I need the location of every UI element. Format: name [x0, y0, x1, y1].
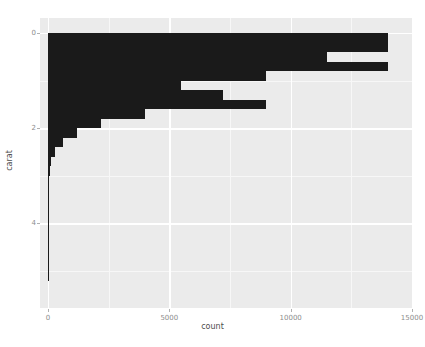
bar — [48, 233, 49, 243]
y-axis-tick-label: 0 — [20, 29, 36, 37]
bar — [48, 204, 49, 214]
bar — [48, 81, 181, 91]
bar — [48, 261, 49, 271]
bar — [48, 223, 49, 233]
plot-panel — [40, 18, 412, 308]
x-axis-tick — [412, 309, 413, 312]
x-axis-tick — [169, 309, 170, 312]
bar — [48, 33, 388, 43]
bar — [48, 271, 49, 281]
y-axis-tick — [37, 128, 40, 129]
chart-figure: carat count 024050001000015000 — [0, 0, 425, 347]
y-axis-title: carat — [5, 136, 14, 186]
x-axis-title: count — [0, 322, 425, 331]
bar — [48, 252, 49, 262]
bar — [48, 71, 266, 81]
gridline-minor-horizontal — [40, 271, 412, 272]
bar — [48, 90, 223, 100]
bar — [48, 100, 266, 110]
bar — [48, 119, 101, 129]
y-axis-tick — [37, 223, 40, 224]
bar — [48, 128, 77, 138]
y-axis-tick-label: 2 — [20, 124, 36, 132]
x-axis-tick — [291, 309, 292, 312]
gridline-major-horizontal — [40, 128, 412, 129]
bar — [48, 147, 55, 157]
x-axis-tick-label: 0 — [28, 314, 68, 322]
bar — [48, 195, 49, 205]
x-axis-tick — [48, 309, 49, 312]
bar — [48, 176, 49, 186]
bar — [48, 242, 49, 252]
bar — [48, 185, 49, 195]
bar — [48, 138, 63, 148]
x-axis-tick-label: 15000 — [392, 314, 425, 322]
bar — [48, 109, 145, 119]
bar — [48, 43, 388, 53]
bar — [48, 157, 51, 167]
gridline-major-horizontal — [40, 223, 412, 224]
gridline-minor-horizontal — [40, 176, 412, 177]
bar — [48, 214, 49, 224]
x-axis-tick-label: 10000 — [271, 314, 311, 322]
y-axis-tick-label: 4 — [20, 219, 36, 227]
bar — [48, 166, 50, 176]
x-axis-tick-label: 5000 — [149, 314, 189, 322]
y-axis-tick — [37, 33, 40, 34]
bar — [48, 52, 327, 62]
bar — [48, 62, 388, 72]
